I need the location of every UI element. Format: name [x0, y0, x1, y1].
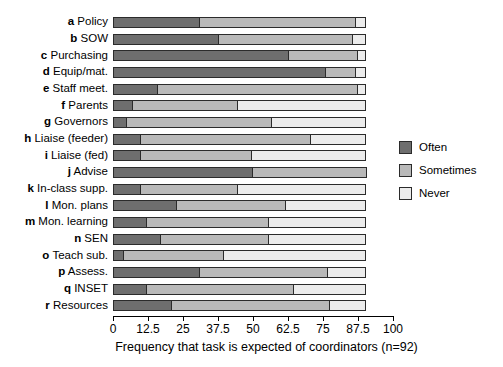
legend-item-sometimes[interactable]: Sometimes: [399, 163, 499, 177]
bar-segment-often: [113, 100, 133, 111]
bar-segment-often: [113, 284, 147, 295]
bar-segment-sometimes: [146, 284, 294, 295]
bar-segment-sometimes: [140, 150, 252, 161]
category-label-g: g Governors: [0, 116, 108, 127]
bar-segment-sometimes: [123, 250, 224, 261]
bar-row: [113, 300, 393, 311]
bar-row: [113, 50, 393, 61]
category-text: Policy: [74, 15, 108, 27]
x-tick: [148, 316, 149, 321]
bar-segment-often: [113, 117, 127, 128]
x-tick-label: 62.5: [276, 322, 299, 336]
bar-row: [113, 117, 393, 128]
category-text: Advise: [71, 165, 108, 177]
category-label-e: e Staff meet.: [0, 83, 108, 94]
category-text: Mon. plans: [49, 199, 108, 211]
category-text: Purchasing: [47, 49, 108, 61]
category-label-a: a Policy: [0, 16, 108, 27]
category-label-n: n SEN: [0, 233, 108, 244]
category-label-m: m Mon. learning: [0, 216, 108, 227]
x-tick: [288, 316, 289, 321]
bar-row: [113, 234, 393, 245]
bar-segment-often: [113, 217, 147, 228]
legend-label: Often: [419, 141, 447, 153]
bar-segment-often: [113, 184, 141, 195]
bar-segment-never: [329, 300, 365, 311]
category-text: INSET: [71, 282, 108, 294]
bar-segment-never: [285, 200, 366, 211]
bar-row: [113, 267, 393, 278]
category-text: Governors: [51, 115, 108, 127]
legend-item-often[interactable]: Often: [399, 140, 499, 154]
x-tick-label: 37.5: [206, 322, 229, 336]
bar-segment-sometimes: [140, 134, 311, 145]
bar-segment-sometimes: [176, 200, 285, 211]
bar-segment-never: [251, 150, 366, 161]
category-label-r: r Resources: [0, 300, 108, 311]
bar-segment-sometimes: [160, 234, 269, 245]
category-text: Assess.: [65, 265, 108, 277]
bar-segment-often: [113, 84, 158, 95]
category-text: SEN: [81, 232, 108, 244]
category-text: Liaise (fed): [48, 149, 108, 161]
bar-segment-sometimes: [146, 217, 269, 228]
bar-segment-often: [113, 134, 141, 145]
bar-segment-often: [113, 234, 161, 245]
bar-row: [113, 84, 393, 95]
category-text: Staff meet.: [49, 82, 108, 94]
bar-segment-never: [268, 234, 366, 245]
category-text: Resources: [50, 299, 108, 311]
bar-segment-never: [293, 284, 366, 295]
category-label-d: d Equip/mat.: [0, 66, 108, 77]
category-text: In-class supp.: [34, 182, 108, 194]
x-tick-label: 87.5: [346, 322, 369, 336]
x-tick: [323, 316, 324, 321]
category-label-c: c Purchasing: [0, 50, 108, 61]
legend: OftenSometimesNever: [399, 140, 499, 209]
bar-row: [113, 34, 393, 45]
x-tick-label: 25: [176, 322, 189, 336]
bar-segment-often: [113, 150, 141, 161]
category-label-l: l Mon. plans: [0, 200, 108, 211]
x-tick: [253, 316, 254, 321]
bar-segment-sometimes: [325, 67, 356, 78]
legend-item-never[interactable]: Never: [399, 186, 499, 200]
x-tick: [218, 316, 219, 321]
bar-segment-never: [271, 117, 366, 128]
bar-row: [113, 217, 393, 228]
bar-row: [113, 250, 393, 261]
category-text: Equip/mat.: [50, 65, 108, 77]
bar-segment-sometimes: [199, 17, 356, 28]
bar-row: [113, 17, 393, 28]
bar-segment-never: [310, 134, 366, 145]
bar-segment-sometimes: [157, 84, 359, 95]
category-text: Mon. learning: [35, 215, 108, 227]
x-tick-label: 50: [246, 322, 259, 336]
stacked-bar-chart: a Policyb SOWc Purchasingd Equip/mat.e S…: [0, 0, 503, 367]
legend-swatch-sometimes: [399, 164, 412, 177]
category-label-h: h Liaise (feeder): [0, 133, 108, 144]
bar-rows: [113, 14, 393, 314]
x-tick-label: 12.5: [136, 322, 159, 336]
bar-segment-never: [355, 67, 366, 78]
bar-segment-often: [113, 300, 172, 311]
category-label-q: q INSET: [0, 283, 108, 294]
bar-row: [113, 200, 393, 211]
x-tick-label: 0: [110, 322, 117, 336]
x-tick-label: 75: [316, 322, 329, 336]
x-tick-label: 100: [383, 322, 403, 336]
bar-segment-often: [113, 200, 177, 211]
plot-area: [113, 14, 393, 314]
category-key: d: [43, 65, 50, 77]
bar-segment-never: [355, 17, 366, 28]
bar-row: [113, 67, 393, 78]
bar-segment-often: [113, 67, 326, 78]
category-text: Parents: [65, 99, 108, 111]
bar-segment-sometimes: [171, 300, 331, 311]
bar-segment-sometimes: [140, 184, 238, 195]
bar-segment-often: [113, 50, 289, 61]
category-axis-labels: a Policyb SOWc Purchasingd Equip/mat.e S…: [0, 14, 108, 314]
bar-segment-never: [237, 184, 366, 195]
bar-row: [113, 150, 393, 161]
x-tick: [113, 316, 114, 321]
